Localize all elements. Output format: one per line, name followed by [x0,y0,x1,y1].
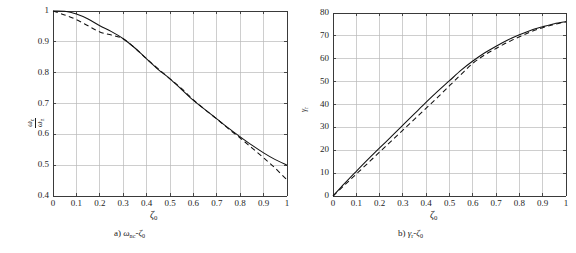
x-tick-label: 0.8 [228,199,252,208]
caption-b-sub2: 0 [420,233,423,239]
y-tick-label: 1 [27,6,49,15]
x-tick-label: 0.8 [507,199,531,208]
gridlines-a [53,11,287,196]
caption-a-sub2: 0 [142,233,145,239]
chart-panel-a: 0.40.50.60.70.80.91 00.10.20.30.40.50.60… [0,0,288,253]
x-tick-label: 0.6 [181,199,205,208]
x-tick-label: 0.5 [438,199,462,208]
x-tick-label: 0.3 [391,199,415,208]
x-tick-label: 0 [321,199,345,208]
x-tick-label: 0.7 [205,199,229,208]
x-axis-title-b-sub: 0 [434,214,437,221]
x-tick-label: 0.6 [461,199,485,208]
y-tick-label: 0.7 [27,99,49,108]
panel-caption-a: a) ωnc-ζ0 [114,229,145,239]
y-tick-label: 0.6 [27,129,49,138]
y-axis-title-a-den: ω [35,121,44,127]
x-tick-label: 0.2 [368,199,392,208]
x-tick-label: 0.1 [64,199,88,208]
caption-a-prefix: a) [114,228,123,238]
chart-panel-b: 01020304050607080 00.10.20.30.40.50.60.7… [288,0,576,253]
x-tick-label: 0 [41,199,65,208]
panel-caption-b: b) γr-ζ0 [398,229,423,239]
y-axis-title-a: ωc ωn [26,118,45,128]
y-tick-label: 40 [307,100,329,109]
x-tick-label: 0.4 [135,199,159,208]
x-tick-label: 0.5 [158,199,182,208]
x-tick-label: 0.1 [344,199,368,208]
x-axis-title-b: ζ0 [430,210,437,222]
x-axis-title-a-sub: 0 [154,214,157,221]
x-tick-label: 0.7 [484,199,508,208]
x-tick-label: 1 [554,199,576,208]
y-axis-title-b: γr [300,107,309,112]
y-tick-label: 0.8 [27,68,49,77]
y-axis-title-a-num: ω [25,121,34,127]
y-tick-label: 0.9 [27,37,49,46]
y-tick-label: 80 [307,8,329,17]
y-tick-label: 30 [307,122,329,131]
y-axis-title-a-den-sub: n [39,119,45,122]
figure-container: 0.40.50.60.70.80.91 00.10.20.30.40.50.60… [0,0,576,253]
y-tick-label: 20 [307,145,329,154]
x-axis-title-a: ζ0 [150,210,157,222]
y-tick-label: 0.5 [27,160,49,169]
x-tick-label: 0.9 [531,199,555,208]
y-axis-title-a-num-sub: c [29,119,35,121]
y-axis-title-b-sub: r [303,107,309,109]
y-tick-label: 60 [307,54,329,63]
gridlines-b [333,13,566,196]
y-axis-title-b-sym: γ [299,109,308,112]
y-tick-label: 50 [307,77,329,86]
x-tick-label: 0.4 [414,199,438,208]
y-tick-label: 10 [307,168,329,177]
x-tick-label: 0.9 [252,199,276,208]
caption-b-prefix: b) [398,228,408,238]
y-tick-label: 70 [307,31,329,40]
x-tick-label: 0.2 [88,199,112,208]
x-tick-label: 0.3 [111,199,135,208]
